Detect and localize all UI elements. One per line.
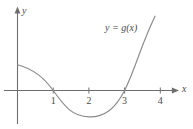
- curve-annotation-label: y = g(x): [105, 23, 137, 33]
- x-tick-label-3: 3: [119, 96, 131, 106]
- x-tick-label-1: 1: [47, 96, 59, 106]
- y-axis-arrowhead-icon: [15, 7, 21, 14]
- x-tick-label-2: 2: [83, 96, 95, 106]
- x-axis-arrowhead-icon: [172, 88, 179, 94]
- graph-figure: y x y = g(x) 1 2 3 4: [0, 0, 193, 129]
- x-axis-label: x: [182, 84, 186, 94]
- graph-canvas: [0, 0, 193, 129]
- y-axis-label: y: [22, 6, 26, 16]
- x-tick-label-4: 4: [154, 96, 166, 106]
- x-axis: [4, 88, 179, 94]
